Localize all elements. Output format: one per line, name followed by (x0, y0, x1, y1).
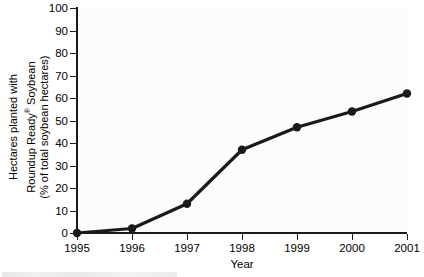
data-point-marker (238, 146, 246, 154)
data-point-marker (128, 224, 136, 232)
data-point-marker (73, 229, 81, 237)
series-polyline (77, 94, 407, 234)
data-point-marker (348, 107, 356, 115)
data-point-marker (403, 89, 411, 97)
data-point-marker (183, 200, 191, 208)
data-point-marker (293, 123, 301, 131)
page-edge-artifact (2, 272, 177, 277)
